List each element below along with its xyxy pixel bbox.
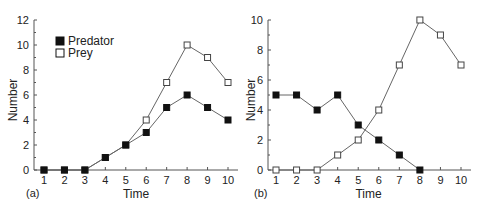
figure: 02468101212345678910TimeNumber(a)Predato… [0, 0, 486, 208]
legend-prey-label: Prey [68, 46, 93, 60]
panel-label: (a) [26, 187, 39, 199]
predator-marker [355, 122, 361, 128]
y-tick-label: 0 [257, 164, 263, 176]
y-tick-label: 8 [23, 64, 29, 76]
y-tick-label: 10 [17, 39, 29, 51]
prey-marker [458, 62, 464, 68]
predator-marker [143, 130, 149, 136]
x-tick-label: 8 [184, 174, 190, 186]
x-tick-label: 2 [293, 174, 299, 186]
x-tick-label: 9 [437, 174, 443, 186]
predator-marker [294, 92, 300, 98]
panel-label: (b) [254, 187, 267, 199]
predator-marker [205, 105, 211, 111]
x-axis-title: Time [355, 187, 382, 201]
x-tick-label: 3 [82, 174, 88, 186]
predator-marker [396, 152, 402, 158]
prey-marker [273, 167, 279, 173]
x-tick-label: 1 [273, 174, 279, 186]
x-tick-label: 10 [455, 174, 467, 186]
predator-marker [184, 92, 190, 98]
series-line-prey [44, 45, 228, 170]
predator-marker [417, 167, 423, 173]
prey-marker [335, 152, 341, 158]
x-tick-label: 2 [61, 174, 67, 186]
y-tick-label: 12 [17, 14, 29, 26]
x-tick-label: 8 [417, 174, 423, 186]
y-tick-label: 4 [23, 114, 29, 126]
x-tick-label: 3 [314, 174, 320, 186]
x-tick-label: 7 [164, 174, 170, 186]
prey-marker [396, 62, 402, 68]
y-axis-title: Number [244, 79, 258, 122]
prey-marker [164, 80, 170, 86]
x-tick-label: 1 [41, 174, 47, 186]
x-tick-label: 10 [222, 174, 234, 186]
chart-panel-a: 02468101212345678910TimeNumber(a)Predato… [0, 0, 243, 208]
y-tick-label: 0 [23, 164, 29, 176]
y-tick-label: 2 [23, 139, 29, 151]
prey-marker [225, 80, 231, 86]
y-tick-label: 8 [257, 44, 263, 56]
predator-marker [61, 167, 67, 173]
y-tick-label: 6 [23, 89, 29, 101]
predator-marker [273, 92, 279, 98]
predator-marker [164, 105, 170, 111]
prey-marker [355, 137, 361, 143]
y-tick-label: 2 [257, 134, 263, 146]
x-tick-label: 5 [123, 174, 129, 186]
prey-marker [376, 107, 382, 113]
legend-prey-icon [56, 49, 64, 57]
x-tick-label: 6 [376, 174, 382, 186]
y-tick-label: 10 [251, 14, 263, 26]
predator-marker [41, 167, 47, 173]
prey-marker [294, 167, 300, 173]
prey-marker [184, 42, 190, 48]
prey-marker [314, 167, 320, 173]
legend-predator-icon [56, 37, 64, 45]
series-line-prey [276, 20, 461, 170]
y-axis-title: Number [6, 79, 20, 122]
predator-marker [335, 92, 341, 98]
predator-marker [102, 155, 108, 161]
x-tick-label: 6 [143, 174, 149, 186]
x-tick-label: 5 [355, 174, 361, 186]
x-tick-label: 4 [335, 174, 341, 186]
x-tick-label: 9 [204, 174, 210, 186]
prey-marker [143, 117, 149, 123]
x-tick-label: 7 [396, 174, 402, 186]
x-axis-title: Time [123, 187, 150, 201]
chart-panel-b: 024681012345678910TimeNumber(b) [243, 0, 486, 208]
series-line-predator [276, 95, 420, 170]
prey-marker [205, 55, 211, 61]
predator-marker [376, 137, 382, 143]
predator-marker [314, 107, 320, 113]
x-tick-label: 4 [102, 174, 108, 186]
predator-marker [123, 142, 129, 148]
prey-marker [437, 32, 443, 38]
predator-marker [225, 117, 231, 123]
predator-marker [82, 167, 88, 173]
prey-marker [417, 17, 423, 23]
